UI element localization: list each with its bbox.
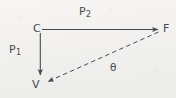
vector-label-p2-subscript: 2 bbox=[86, 10, 91, 19]
vertex-label-v: V bbox=[32, 79, 40, 90]
vector-label-p2-base: P bbox=[79, 5, 86, 18]
vector-label-p1: P1 bbox=[9, 44, 21, 57]
vector-diagram-figure: C F V P1 P2 θ bbox=[0, 0, 176, 98]
vector-label-p2: P2 bbox=[79, 6, 91, 19]
vector-label-p1-subscript: 1 bbox=[16, 48, 21, 57]
dashed-segment-f-to-v bbox=[48, 32, 159, 82]
vector-label-p1-base: P bbox=[9, 43, 16, 56]
vertex-label-c: C bbox=[33, 23, 41, 34]
vertex-label-f: F bbox=[163, 23, 170, 34]
angle-label-theta: θ bbox=[110, 62, 116, 73]
